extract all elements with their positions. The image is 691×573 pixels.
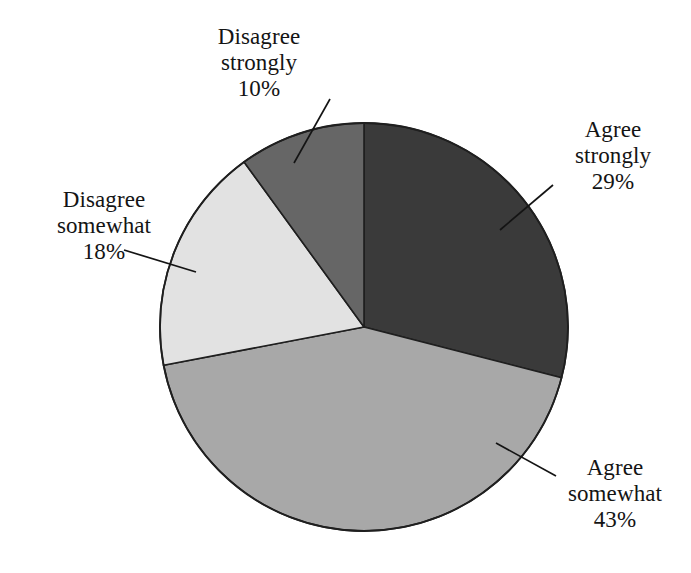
pie-label-disagree-strongly: Disagree strongly 10% xyxy=(164,24,354,103)
pie-chart: Disagree strongly 10% Agree strongly 29%… xyxy=(0,0,691,573)
pie-label-agree-somewhat-line1: Agree xyxy=(540,455,690,481)
pie-label-agree-somewhat-line2: somewhat xyxy=(540,481,690,507)
pie-label-disagree-somewhat: Disagree somewhat 18% xyxy=(6,187,202,266)
pie-label-agree-strongly: Agree strongly 29% xyxy=(538,117,688,196)
pie-label-disagree-strongly-line1: Disagree xyxy=(164,24,354,50)
pie-label-agree-strongly-value: 29% xyxy=(538,169,688,195)
pie-label-disagree-somewhat-value: 18% xyxy=(6,239,202,265)
pie-label-agree-strongly-line1: Agree xyxy=(538,117,688,143)
pie-label-agree-somewhat: Agree somewhat 43% xyxy=(540,455,690,534)
pie-label-disagree-somewhat-line1: Disagree xyxy=(6,187,202,213)
pie-label-disagree-strongly-line2: strongly xyxy=(164,50,354,76)
pie-label-agree-somewhat-value: 43% xyxy=(540,507,690,533)
pie-label-disagree-somewhat-line2: somewhat xyxy=(6,213,202,239)
pie-label-agree-strongly-line2: strongly xyxy=(538,143,688,169)
pie-label-disagree-strongly-value: 10% xyxy=(164,76,354,102)
